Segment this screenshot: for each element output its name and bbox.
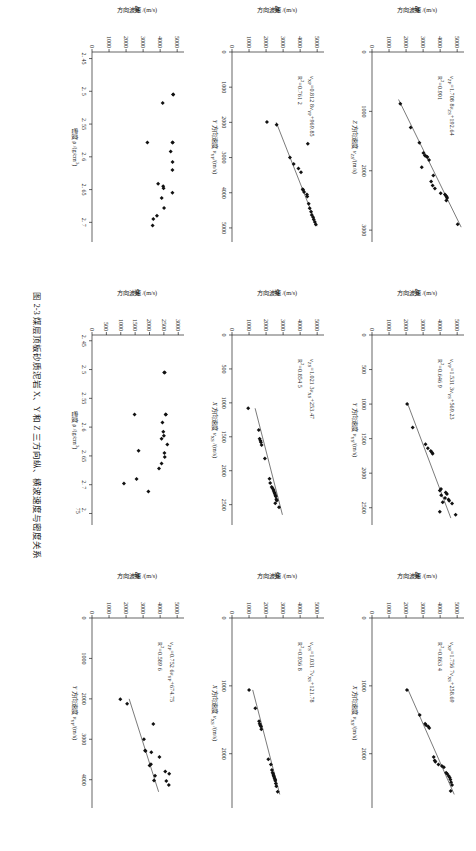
panel-row: 0100020003000400050000100020003000400050… — [196, 0, 336, 851]
fit-r2: R2=0.854 5 — [295, 359, 305, 419]
y-tick-label: 0 — [229, 309, 235, 331]
x-axis-label: 密度 ρ /(g/cm3) — [71, 335, 80, 525]
x-tick-label: 2. 6 — [81, 152, 87, 161]
panel-i: 01000200030004000500001000200030004000Z … — [56, 566, 196, 849]
x-tick-label: 500 — [221, 364, 227, 373]
x-tick-label: 5000 — [221, 222, 227, 234]
panel-b: 0100020003000400050000500100015002000250… — [336, 283, 476, 566]
panel-d: 0100020003000400050000100020003000400050… — [196, 0, 336, 283]
x-tick-label: 2. 65 — [81, 184, 87, 196]
x-tick-label: 2000 — [221, 116, 227, 128]
y-tick-label: 3000 — [140, 592, 146, 614]
y-tick-label: 4000 — [297, 26, 303, 48]
y-axis-label: X 方向波速 vXP/(m/s) — [218, 2, 336, 16]
y-tick-label: 1000 — [246, 592, 252, 614]
x-tick-label: 1000 — [361, 398, 367, 410]
x-axis-label: Z 方向速度 vZS/(m/s) — [350, 52, 360, 242]
fit-r2: R2=0.863 4 — [435, 642, 445, 703]
y-axis-label: Z 方向波速 vZP/(m/s) — [358, 2, 476, 16]
plot-axes — [92, 335, 184, 525]
x-tick-label: 2. 45 — [81, 53, 87, 65]
plot-area: 0500100015002000250030002. 452. 52. 552.… — [92, 335, 184, 525]
y-tick-label: 500 — [103, 309, 109, 331]
x-tick-label: 0 — [361, 617, 367, 620]
panel-grid: 0100020003000400050000100020003000Z 方向波速… — [56, 0, 476, 851]
y-tick-label: 1500 — [132, 309, 138, 331]
y-tick-label: 4000 — [437, 26, 443, 48]
y-tick-label: 2000 — [403, 26, 409, 48]
x-tick-label: 2500 — [361, 502, 367, 514]
y-tick-label: 1000 — [386, 592, 392, 614]
y-tick-label: 1000 — [386, 309, 392, 331]
x-tick-label: 1500 — [221, 431, 227, 443]
x-tick-label: 1500 — [361, 433, 367, 445]
x-tick-label: 1000 — [221, 81, 227, 93]
y-tick-label: 0 — [369, 26, 375, 48]
x-tick-label: 1000 — [221, 680, 227, 692]
figure-rotated-wrapper: 0100020003000400050000100020003000Z 方向波速… — [0, 0, 476, 851]
y-tick-label: 3000 — [420, 592, 426, 614]
figure-canvas: 0100020003000400050000100020003000Z 方向波速… — [0, 0, 476, 851]
y-tick-label: 5000 — [314, 309, 320, 331]
y-tick-label: 0 — [369, 309, 375, 331]
y-tick-label: 4000 — [157, 26, 163, 48]
fit-annotation: vXP=0.812 8vYP+969.85R2=0.761 2 — [295, 76, 316, 137]
y-tick-label: 2500 — [161, 309, 167, 331]
x-tick-label: 2. 65 — [81, 450, 87, 462]
x-axis-label: Y 方向速度 vYP/(m/s) — [70, 618, 80, 808]
y-tick-label: 3000 — [280, 592, 286, 614]
y-tick-label: 2000 — [147, 309, 153, 331]
x-tick-label: 0 — [361, 51, 367, 54]
y-tick-label: 4000 — [297, 592, 303, 614]
y-tick-label: 3000 — [280, 309, 286, 331]
y-tick-label: 0 — [89, 592, 95, 614]
x-tick-label: 0 — [221, 334, 227, 337]
fit-annotation: vZP=0.752 6vYP+674.75R2=0.589 6 — [155, 642, 176, 702]
panel-h: 0500100015002000250030002. 452. 52. 552.… — [56, 283, 196, 566]
x-tick-label: 2000 — [221, 748, 227, 760]
x-axis-label: X 方向速度 vXS/(m/s) — [350, 618, 360, 808]
y-tick-label: 0 — [89, 26, 95, 48]
fit-annotation: vYS=1.031 7vXS+121.78R2=0.936 8 — [295, 642, 316, 703]
y-tick-label: 1000 — [106, 592, 112, 614]
x-tick-label: 4000 — [81, 774, 87, 786]
y-axis-label: Y 方向波速 vYS/(m/s) — [218, 568, 336, 582]
x-tick-label: 2. 5 — [81, 365, 87, 374]
x-tick-label: 2. 7 — [81, 218, 87, 227]
x-tick-label: 4000 — [221, 187, 227, 199]
y-tick-label: 1000 — [246, 309, 252, 331]
x-axis-label: Y 方向速度 vYP/(m/s) — [210, 52, 220, 242]
y-tick-label: 3000 — [280, 26, 286, 48]
x-tick-label: 2000 — [81, 693, 87, 705]
plot-axes — [92, 52, 184, 242]
y-axis-label: Z 方向波速 vZS/(m/s) — [218, 285, 336, 299]
y-tick-label: 0 — [229, 26, 235, 48]
fit-annotation: vYP=1.531 3vYS+569.23R2=0.646 9 — [435, 359, 456, 420]
x-tick-label: 2000 — [361, 467, 367, 479]
y-tick-label: 0 — [89, 309, 95, 331]
fit-equation: vZP=0.752 6vYP+674.75 — [165, 642, 176, 702]
x-axis-label: Y 方向速度 vYS/(m/s) — [350, 335, 360, 525]
x-tick-label: 0 — [221, 51, 227, 54]
x-axis-label: 密度 ρ /(g/cm3) — [71, 52, 80, 242]
x-tick-label: 2. 5 — [81, 87, 87, 96]
y-tick-label: 5000 — [454, 26, 460, 48]
y-tick-label: 5000 — [174, 592, 180, 614]
fit-r2: R2=0.646 9 — [435, 359, 445, 420]
x-axis-label: X 方向速度 vXS /(m/s) — [210, 618, 220, 808]
fit-r2: R2=0.901 — [435, 76, 445, 136]
y-tick-label: 3000 — [140, 26, 146, 48]
fit-annotation: vZS=1.021 3vXS+253.47R2=0.854 5 — [295, 359, 316, 419]
y-tick-label: 0 — [229, 592, 235, 614]
fit-equation: vZP=1.708 8vZS+192.64 — [445, 76, 456, 136]
x-tick-label: 3000 — [361, 224, 367, 236]
y-tick-label: 1000 — [118, 309, 124, 331]
y-tick-label: 3000 — [420, 26, 426, 48]
fit-equation: vXP=1.756 7vXS+258.69 — [445, 642, 456, 703]
x-tick-label: 2. 55 — [81, 118, 87, 130]
y-tick-label: 5000 — [314, 26, 320, 48]
y-tick-label: 3000 — [175, 309, 181, 331]
y-tick-label: 2000 — [403, 592, 409, 614]
y-tick-label: 5000 — [454, 592, 460, 614]
y-axis-label: X 方向波速 vXP/(m/s) — [358, 568, 476, 582]
